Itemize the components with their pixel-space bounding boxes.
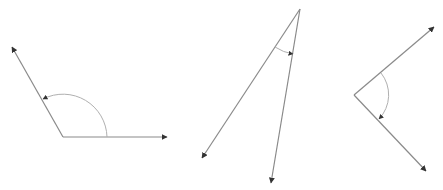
obtuse-angle bbox=[12, 47, 167, 137]
acute-angle-ray-2 bbox=[271, 9, 300, 183]
right-angle-arc bbox=[379, 73, 389, 119]
angle-diagram bbox=[0, 0, 443, 190]
acute-angle bbox=[202, 9, 300, 183]
acute-angle-ray-1 bbox=[202, 9, 300, 158]
obtuse-angle-arc bbox=[43, 94, 107, 137]
acute-angle-arc bbox=[275, 47, 293, 54]
obtuse-angle-ray-1 bbox=[12, 47, 63, 137]
right-angle-ray-2 bbox=[354, 95, 426, 171]
right-angle bbox=[354, 27, 434, 171]
right-angle-ray-1 bbox=[354, 27, 434, 95]
angles-layer bbox=[12, 9, 434, 183]
